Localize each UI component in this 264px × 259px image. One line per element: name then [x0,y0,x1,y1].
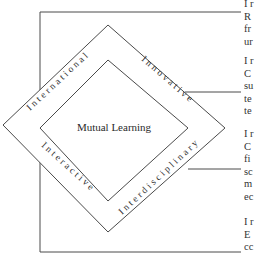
text-line: I r [244,128,264,141]
mutual-learning-diagram: International Innovative Interactive Int… [0,0,264,259]
text-line: fr [244,23,264,36]
text-line: I r [244,0,264,11]
text-line: sc [244,166,264,179]
text-block-2: I r C su te te [244,55,264,118]
text-line: m [244,178,264,191]
text-line: I r [244,216,264,229]
text-block-4: I r E cc [244,216,264,254]
text-line: su [244,80,264,93]
text-line: E [244,229,264,242]
text-line: C [244,68,264,81]
text-line: cc [244,241,264,254]
text-line: ec [244,191,264,204]
text-line: fi [244,153,264,166]
text-line: R [244,11,264,24]
text-block-1: I r R fr ur [244,0,264,48]
text-line: C [244,141,264,154]
text-block-3: I r C fi sc m ec [244,128,264,203]
text-line: I r [244,55,264,68]
text-line: te [244,93,264,106]
text-line: ur [244,36,264,49]
center-label-mutual-learning: Mutual Learning [77,121,152,133]
text-line: te [244,105,264,118]
